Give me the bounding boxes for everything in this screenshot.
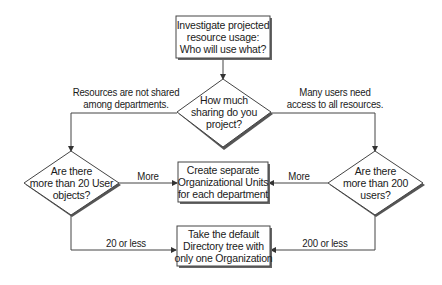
edge-label-many-users: Many users need access to all resources. <box>280 86 390 110</box>
edge-not-shared <box>71 113 177 151</box>
start-line-2: resource usage: <box>177 31 270 43</box>
users-line-1: Are there <box>343 165 408 177</box>
sharing-decision-text: How much sharing do you project? <box>177 93 271 131</box>
edge-label-left-more: More <box>130 170 167 182</box>
default-tree-line-3: only one Organization <box>175 252 273 264</box>
edge-many-users <box>271 113 375 151</box>
default-tree-text: Take the default Directory tree with onl… <box>177 226 270 266</box>
separate-ous-line-1: Create separate <box>178 164 269 176</box>
separate-ous-text: Create separate Organizational Units for… <box>178 162 268 202</box>
users-line-3: users? <box>343 189 408 201</box>
default-tree-line-1: Take the default <box>175 228 273 240</box>
default-tree-line-2: Directory tree with <box>175 240 273 252</box>
edge-label-right-less: 200 or less <box>295 237 356 249</box>
user-objects-line-1: Are there <box>30 165 114 177</box>
user-objects-line-3: objects? <box>30 189 114 201</box>
not-shared-line-2: among departments. <box>71 98 181 110</box>
start-line-3: Who will use what? <box>177 43 270 55</box>
many-users-line-1: Many users need <box>280 86 390 98</box>
edge-label-right-more: More <box>281 170 318 182</box>
user-objects-decision-text: Are there more than 20 User objects? <box>24 164 119 202</box>
not-shared-line-1: Resources are not shared <box>71 86 181 98</box>
separate-ous-line-3: for each department <box>178 188 269 200</box>
sharing-line-1: How much <box>191 94 257 106</box>
users-line-2: more than 200 <box>343 177 408 189</box>
sharing-line-2: sharing do you <box>191 106 257 118</box>
edge-label-left-less: 20 or less <box>98 237 153 249</box>
separate-ous-line-2: Organizational Units <box>178 176 269 188</box>
sharing-line-3: project? <box>191 118 257 130</box>
edge-label-not-shared: Resources are not shared among departmen… <box>71 86 181 110</box>
start-box-text: Investigate projected resource usage: Wh… <box>176 16 270 58</box>
many-users-line-2: access to all resources. <box>280 98 390 110</box>
start-line-1: Investigate projected <box>177 19 270 31</box>
users-decision-text: Are there more than 200 users? <box>328 164 423 202</box>
user-objects-line-2: more than 20 User <box>30 177 114 189</box>
